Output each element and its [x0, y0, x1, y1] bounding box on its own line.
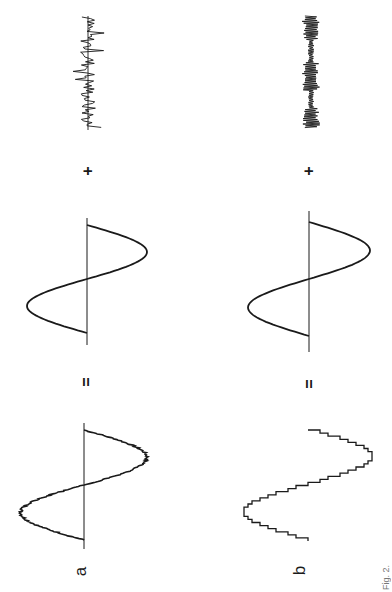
- plus-symbol-b: +: [301, 166, 317, 175]
- row-b-staircase-sine: [244, 430, 372, 541]
- row-b-quantization-error: [302, 16, 320, 128]
- figure-canvas: [0, 0, 392, 592]
- panel-label-b: b: [291, 566, 308, 575]
- row-a-noisy-sine: [20, 423, 149, 549]
- equals-symbol-b: =: [302, 379, 318, 388]
- panel-label-a: a: [72, 567, 89, 576]
- plus-symbol-a: +: [80, 166, 96, 175]
- equals-symbol-a: =: [79, 377, 95, 386]
- row-a-noise-signal: [73, 16, 104, 130]
- row-a-pure-sine: [27, 218, 147, 345]
- figure-caption: Fig. 2.: [381, 400, 391, 590]
- row-b-pure-sine: [248, 211, 370, 352]
